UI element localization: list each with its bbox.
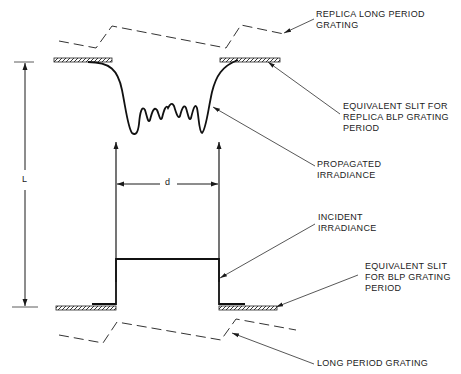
diagram-canvas (0, 0, 461, 374)
blp-equivalent-slit (56, 306, 277, 310)
leader-lines (213, 19, 358, 364)
replica-equivalent-slit (54, 58, 280, 62)
label-propagated-irradiance: PROPAGATED IRRADIANCE (317, 159, 381, 181)
label-equivalent-slit-blp: EQUIVALENT SLIT FOR BLP GRATING PERIOD (365, 261, 451, 294)
length-symbol: L (22, 174, 27, 184)
replica-long-period-grating (59, 25, 284, 48)
label-equivalent-slit-replica: EQUIVALENT SLIT FOR REPLICA BLP GRATING … (343, 101, 449, 134)
length-dimension (12, 62, 38, 307)
long-period-grating (59, 319, 296, 343)
label-long-period-grating: LONG PERIOD GRATING (317, 358, 428, 369)
label-incident-irradiance: INCIDENT IRRADIANCE (318, 212, 377, 234)
propagation-arrows (116, 142, 219, 282)
label-replica-long-period-grating: REPLICA LONG PERIOD GRATING (316, 9, 425, 31)
propagated-irradiance-curve (88, 60, 238, 134)
incident-irradiance-pulse (92, 259, 245, 304)
width-symbol: d (165, 177, 170, 187)
